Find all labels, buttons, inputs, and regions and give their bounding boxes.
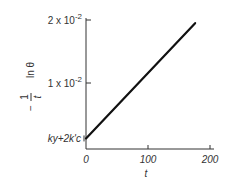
y-label-numerator: 1 <box>19 94 30 100</box>
x-tick-label: 0 <box>83 154 89 165</box>
y-axis-label: −1tln θ <box>19 62 43 111</box>
intercept-annotation: ky+2k'c <box>48 133 81 144</box>
x-tick-label: 100 <box>140 154 157 165</box>
y-label-denominator: t <box>32 94 43 98</box>
x-axis-label: t <box>145 168 149 179</box>
y-tick-label: 1 x 10-2 <box>48 75 83 89</box>
marks <box>86 23 195 138</box>
axes <box>84 18 214 149</box>
y-tick-label: 2 x 10-2 <box>48 12 83 26</box>
labels: 01002001 x 10-22 x 10-2ky+2k'ct−1tln θ <box>19 12 219 179</box>
x-tick-label: 200 <box>201 154 219 165</box>
chart: 01002001 x 10-22 x 10-2ky+2k'ct−1tln θ <box>0 0 228 183</box>
y-label-minus: − <box>25 105 36 111</box>
series-line <box>86 23 195 138</box>
y-label-function: ln θ <box>25 62 36 79</box>
